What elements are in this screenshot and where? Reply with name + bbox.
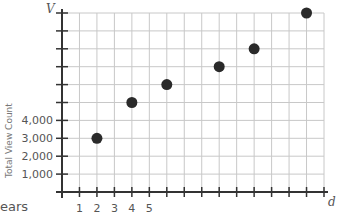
x-tick-label: 2 xyxy=(93,202,100,215)
data-point xyxy=(161,79,172,90)
scatter-chart: 12345 1,0002,0003,0004,000 V d Total Vie… xyxy=(0,0,340,218)
x-axis-letter: d xyxy=(328,195,336,209)
x-tick-label: 3 xyxy=(111,202,118,215)
partial-axis-label: ears xyxy=(0,199,28,214)
x-tick-labels: 12345 xyxy=(76,202,153,215)
data-point xyxy=(126,97,137,108)
grid-lines xyxy=(62,13,324,192)
y-axis-title: Total View Count xyxy=(4,103,14,179)
x-tick-label: 5 xyxy=(146,202,153,215)
axis-ticks xyxy=(56,13,324,197)
y-tick-label: 3,000 xyxy=(22,132,54,145)
x-tick-label: 4 xyxy=(128,202,135,215)
data-point xyxy=(91,133,102,144)
y-tick-label: 2,000 xyxy=(22,150,54,163)
x-tick-label: 1 xyxy=(76,202,83,215)
data-point xyxy=(301,8,312,19)
y-axis-letter: V xyxy=(46,2,56,16)
y-tick-label: 1,000 xyxy=(22,168,54,181)
y-tick-labels: 1,0002,0003,0004,000 xyxy=(22,114,54,181)
y-tick-label: 4,000 xyxy=(22,114,54,127)
data-point xyxy=(214,61,225,72)
data-point xyxy=(249,43,260,54)
